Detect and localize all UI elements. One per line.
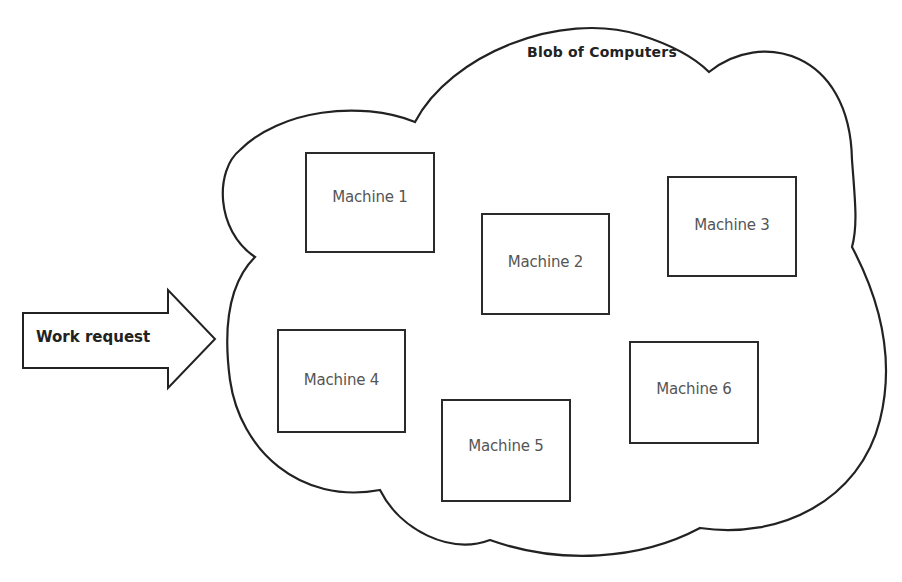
work-request-label: Work request [36,328,166,346]
machine-1-box: Machine 1 [305,152,435,253]
machine-6-label: Machine 6 [656,380,731,398]
cloud-title: Blob of Computers [512,44,692,60]
machine-4-box: Machine 4 [277,329,406,433]
machine-6-box: Machine 6 [629,341,759,444]
machine-2-label: Machine 2 [508,253,583,271]
machine-5-label: Machine 5 [468,437,543,455]
machine-4-label: Machine 4 [304,371,379,389]
machine-3-label: Machine 3 [694,216,769,234]
machine-5-box: Machine 5 [441,399,571,502]
machine-1-label: Machine 1 [332,188,407,206]
machine-2-box: Machine 2 [481,213,610,315]
machine-3-box: Machine 3 [667,176,797,277]
